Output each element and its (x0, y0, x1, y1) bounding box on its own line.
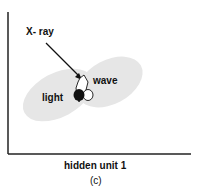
wave-label: wave (93, 75, 117, 86)
xray-label: X- ray (26, 26, 54, 37)
light-marker (74, 89, 85, 101)
panel-label: (c) (90, 175, 102, 186)
x-axis-label: hidden unit 1 (64, 160, 126, 171)
light-label: light (42, 92, 63, 103)
